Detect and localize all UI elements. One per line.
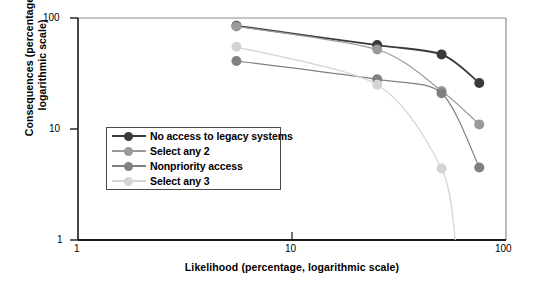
series-data-point <box>231 21 241 31</box>
series-data-point <box>474 119 484 129</box>
legend-swatch-icon <box>112 160 146 172</box>
series-data-point <box>372 45 382 55</box>
x-axis-title: Likelihood (percentage, logarithmic scal… <box>78 261 506 273</box>
legend-marker-icon <box>124 162 133 171</box>
series-data-point <box>474 162 484 172</box>
y-axis-title: Consequences (percentage, logarithmic sc… <box>23 0 49 145</box>
series-data-point <box>474 78 484 88</box>
legend-swatch-icon <box>112 130 146 142</box>
legend-item-label: Select any 3 <box>146 175 210 187</box>
x-tick-label-1: 1 <box>74 243 80 254</box>
legend-swatch-icon <box>112 175 146 187</box>
x-tick-label-100: 100 <box>495 243 512 254</box>
legend-marker-icon <box>124 147 133 156</box>
chart-figure: 100 10 1 1 10 100 Consequences (percenta… <box>0 0 540 283</box>
legend-marker-icon <box>124 132 133 141</box>
series-data-point <box>231 56 241 66</box>
chart-series <box>231 21 484 129</box>
y-tick-label-1: 1 <box>57 234 63 245</box>
series-data-point <box>372 80 382 90</box>
legend-item-label: Nonpriority access <box>146 160 243 172</box>
y-tick-label-10: 10 <box>49 123 60 134</box>
series-data-point <box>231 42 241 52</box>
legend-item-label: No access to legacy systems <box>146 130 293 142</box>
legend-item: No access to legacy systems <box>107 128 280 143</box>
legend-item: Nonpriority access <box>107 158 280 173</box>
legend-item: Select any 2 <box>107 143 280 158</box>
legend-item-label: Select any 2 <box>146 145 210 157</box>
legend-marker-icon <box>124 177 133 186</box>
series-line <box>236 26 479 124</box>
legend-swatch-icon <box>112 145 146 157</box>
x-tick-label-10: 10 <box>285 243 296 254</box>
series-data-point <box>437 49 447 59</box>
legend-item: Select any 3 <box>107 173 280 188</box>
series-data-point <box>437 164 447 174</box>
chart-legend: No access to legacy systemsSelect any 2N… <box>106 127 281 190</box>
series-data-point <box>437 88 447 98</box>
